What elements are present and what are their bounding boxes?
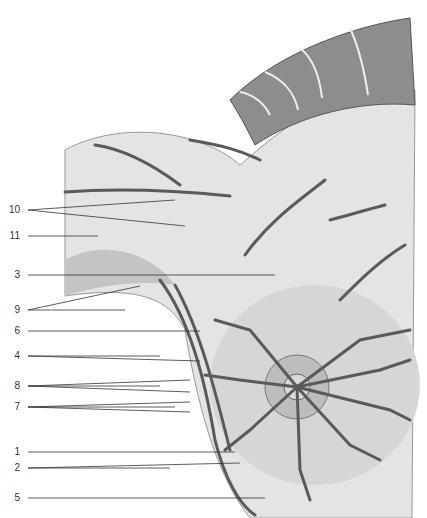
leader-line-8 bbox=[28, 386, 190, 392]
leader-line-7 bbox=[28, 407, 190, 412]
label-7: 7 bbox=[4, 402, 20, 412]
leader-line-8 bbox=[28, 380, 190, 386]
label-3: 3 bbox=[4, 270, 20, 280]
leader-line-4 bbox=[28, 356, 200, 361]
leader-line-7 bbox=[28, 402, 190, 407]
label-9: 9 bbox=[4, 305, 20, 315]
label-2: 2 bbox=[4, 463, 20, 473]
leader-line-2 bbox=[28, 463, 240, 468]
label-6: 6 bbox=[4, 326, 20, 336]
label-11: 11 bbox=[4, 231, 20, 241]
anatomy-figure: 1011396487125 bbox=[0, 0, 427, 518]
label-8: 8 bbox=[4, 381, 20, 391]
label-4: 4 bbox=[4, 351, 20, 361]
label-1: 1 bbox=[4, 447, 20, 457]
label-10: 10 bbox=[4, 205, 20, 215]
label-5: 5 bbox=[4, 493, 20, 503]
illustration bbox=[0, 0, 427, 518]
